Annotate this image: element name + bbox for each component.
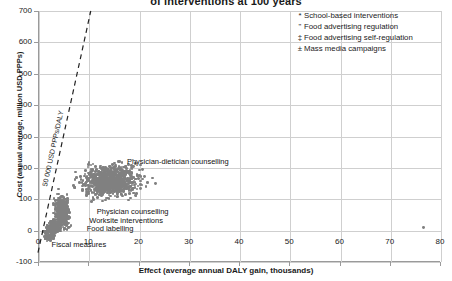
- legend-label: Food advertising self-regulation: [304, 32, 413, 43]
- legend-item: " Food advertising regulation: [296, 21, 448, 32]
- chart-container: of interventions at 100 years Physician-…: [0, 0, 452, 281]
- legend-item: * School-based interventions: [296, 10, 448, 21]
- legend: * School-based interventions " Food adve…: [296, 10, 448, 54]
- legend-label: Mass media campaigns: [304, 43, 386, 54]
- cost-effectiveness-threshold-line: [38, 11, 91, 253]
- legend-symbol-icon: *: [296, 10, 304, 21]
- legend-symbol-icon: ‡: [296, 32, 304, 43]
- legend-symbol-icon: ": [296, 21, 304, 32]
- legend-item: ± Mass media campaigns: [296, 43, 448, 54]
- legend-label: School-based interventions: [304, 10, 398, 21]
- legend-symbol-icon: ±: [296, 43, 304, 54]
- legend-item: ‡ Food advertising self-regulation: [296, 32, 448, 43]
- legend-label: Food advertising regulation: [304, 21, 398, 32]
